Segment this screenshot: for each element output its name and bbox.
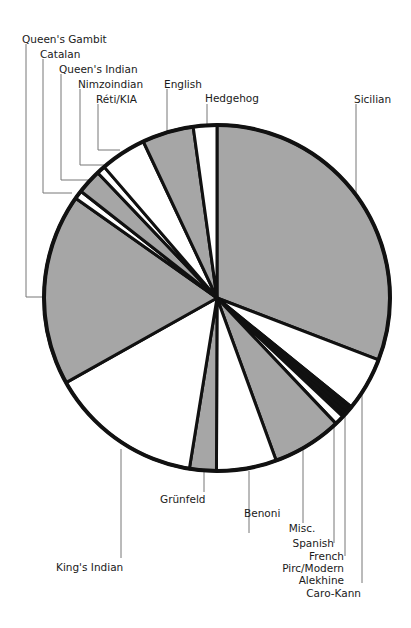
label-grunfeld: Grünfeld xyxy=(160,493,206,505)
label-queens-indian: Queen's Indian xyxy=(59,63,138,75)
label-hedgehog: Hedgehog xyxy=(205,92,259,104)
pie xyxy=(44,125,390,471)
label-french: French xyxy=(309,550,344,562)
leader-reti xyxy=(98,104,120,150)
label-benoni: Benoni xyxy=(244,507,280,519)
label-nimzoindian: Nimzoindian xyxy=(78,78,143,90)
label-kings-indian: King's Indian xyxy=(56,561,123,573)
label-english: English xyxy=(164,78,202,90)
label-reti: Réti/KIA xyxy=(96,93,138,105)
label-catalan: Catalan xyxy=(40,48,80,60)
leader-catalan xyxy=(43,59,72,193)
label-alekhine: Alekhine xyxy=(299,574,344,586)
label-queens-gambit: Queen's Gambit xyxy=(22,33,107,45)
opening-pie-chart: Queen's Gambit Catalan Queen's Indian Ni… xyxy=(0,0,411,628)
label-sicilian: Sicilian xyxy=(354,93,391,105)
label-pirc-modern: Pirc/Modern xyxy=(282,562,344,574)
label-spanish: Spanish xyxy=(293,537,334,549)
label-misc: Misc. xyxy=(289,522,316,534)
label-caro-kann: Caro-Kann xyxy=(306,587,361,599)
